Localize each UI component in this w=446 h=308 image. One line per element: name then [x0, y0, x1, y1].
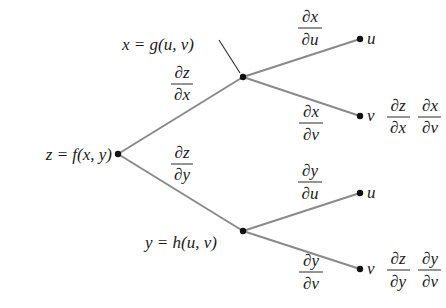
node-x	[240, 74, 246, 80]
fraction-dy-dv: ∂y ∂v	[299, 251, 323, 293]
leaf-label-x-u: u	[367, 29, 376, 48]
fraction-denominator: ∂u	[302, 184, 319, 203]
fraction-numerator: ∂x	[422, 96, 438, 115]
node-y	[240, 228, 246, 234]
node-x-v	[357, 113, 363, 119]
x-label-pointer	[219, 40, 240, 73]
fraction-numerator: ∂z	[390, 249, 405, 268]
node-root	[115, 151, 121, 157]
leaf-label-y-v: v	[367, 259, 375, 278]
fraction-numerator: ∂z	[174, 63, 189, 82]
node-y-u	[357, 190, 363, 196]
chain-rule-tree-diagram: z = f(x, y) x = g(u, v) y = h(u, v) u v …	[0, 0, 446, 308]
fraction-numerator: ∂x	[303, 102, 319, 121]
fraction-denominator: ∂u	[302, 30, 319, 49]
edge-x-to-v	[243, 77, 360, 116]
fraction-numerator: ∂z	[390, 96, 405, 115]
fraction-denominator: ∂x	[174, 85, 190, 104]
fraction-dy-du: ∂y ∂u	[298, 161, 322, 203]
node-x-u	[357, 36, 363, 42]
x-node-label: x = g(u, v)	[121, 35, 194, 54]
fraction-dx-dv: ∂x ∂v	[299, 102, 323, 144]
leaf-label-x-v: v	[367, 106, 375, 125]
fraction-denominator: ∂v	[422, 272, 438, 291]
fraction-dz-dx: ∂z ∂x	[171, 63, 193, 104]
product-x-v: ∂z ∂x ∂x ∂v	[387, 96, 441, 137]
node-labels: z = f(x, y) x = g(u, v) y = h(u, v) u v …	[45, 29, 376, 278]
fraction-denominator: ∂v	[303, 274, 319, 293]
y-node-label: y = h(u, v)	[143, 233, 217, 252]
fraction-numerator: ∂x	[302, 7, 318, 26]
fraction-numerator: ∂z	[174, 143, 189, 162]
fraction-numerator: ∂y	[302, 161, 318, 180]
leaf-label-y-u: u	[367, 183, 376, 202]
fraction-dx-du: ∂x ∂u	[298, 7, 322, 49]
fraction-denominator: ∂x	[390, 118, 406, 137]
fraction-denominator: ∂v	[303, 125, 319, 144]
edge-y-to-v	[243, 231, 360, 269]
fraction-denominator: ∂y	[174, 165, 190, 184]
product-y-v: ∂z ∂y ∂y ∂v	[387, 249, 441, 291]
path-products: ∂z ∂x ∂x ∂v ∂z ∂y ∂y ∂v	[387, 96, 441, 291]
fraction-numerator: ∂y	[422, 249, 438, 268]
node-y-v	[357, 266, 363, 272]
fraction-denominator: ∂y	[390, 272, 406, 291]
fraction-dz-dy: ∂z ∂y	[171, 143, 193, 184]
fraction-denominator: ∂v	[422, 118, 438, 137]
root-label: z = f(x, y)	[45, 145, 113, 164]
fraction-numerator: ∂y	[303, 251, 319, 270]
